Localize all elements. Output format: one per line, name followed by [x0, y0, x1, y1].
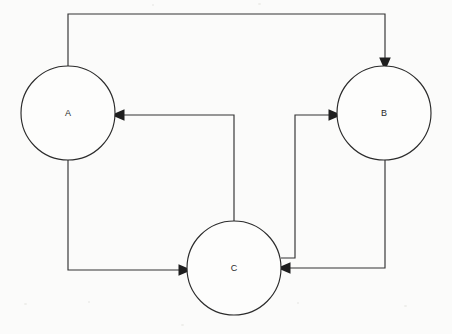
- node-c[interactable]: C: [187, 221, 281, 315]
- node-b-label: B: [381, 108, 387, 118]
- edge-b-to-c: [277, 160, 385, 274]
- edge-c-to-b-path: [281, 115, 331, 258]
- edge-c-to-b: [281, 109, 342, 258]
- node-b[interactable]: B: [337, 66, 431, 160]
- edge-c-to-a-path: [122, 115, 234, 221]
- edge-a-to-c-path: [68, 160, 181, 270]
- edge-a-to-c: [68, 160, 192, 276]
- node-a-label: A: [65, 108, 71, 118]
- diagram-canvas: A B C: [0, 0, 452, 334]
- edge-a-to-b: [68, 14, 391, 71]
- edge-a-to-b-path: [68, 14, 385, 66]
- node-a[interactable]: A: [21, 66, 115, 160]
- edge-b-to-c-path: [288, 160, 385, 268]
- edge-c-to-a: [111, 109, 234, 221]
- graph-svg: A B C: [0, 0, 452, 334]
- node-c-label: C: [231, 263, 238, 273]
